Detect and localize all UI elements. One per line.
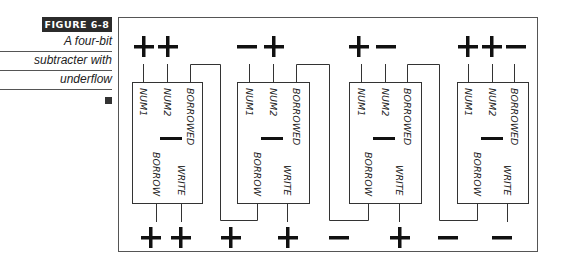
svg-text:NUM1: NUM1: [356, 88, 367, 116]
svg-text:BORROW: BORROW: [252, 152, 263, 197]
svg-text:NUM2: NUM2: [268, 88, 279, 116]
svg-text:BORROW: BORROW: [151, 152, 162, 197]
svg-text:WRITE: WRITE: [282, 165, 293, 196]
svg-text:NUM1: NUM1: [244, 88, 255, 116]
svg-text:BORROWED: BORROWED: [185, 88, 196, 145]
svg-text:WRITE: WRITE: [502, 165, 513, 196]
svg-text:NUM2: NUM2: [162, 88, 173, 116]
svg-text:WRITE: WRITE: [394, 165, 405, 196]
svg-text:NUM1: NUM1: [138, 88, 149, 116]
svg-text:NUM1: NUM1: [463, 88, 474, 116]
svg-text:BORROWED: BORROWED: [291, 88, 302, 145]
svg-text:NUM2: NUM2: [487, 88, 498, 116]
subtracter-diagram: NUM1 NUM2 BORROWED BORROW WRITE NUM1 NUM…: [0, 0, 578, 264]
svg-text:WRITE: WRITE: [176, 165, 187, 196]
svg-text:BORROWED: BORROWED: [509, 88, 520, 145]
svg-text:BORROW: BORROW: [472, 152, 483, 197]
svg-text:NUM2: NUM2: [380, 88, 391, 116]
svg-text:BORROW: BORROW: [363, 152, 374, 197]
svg-text:BORROWED: BORROWED: [402, 88, 413, 145]
